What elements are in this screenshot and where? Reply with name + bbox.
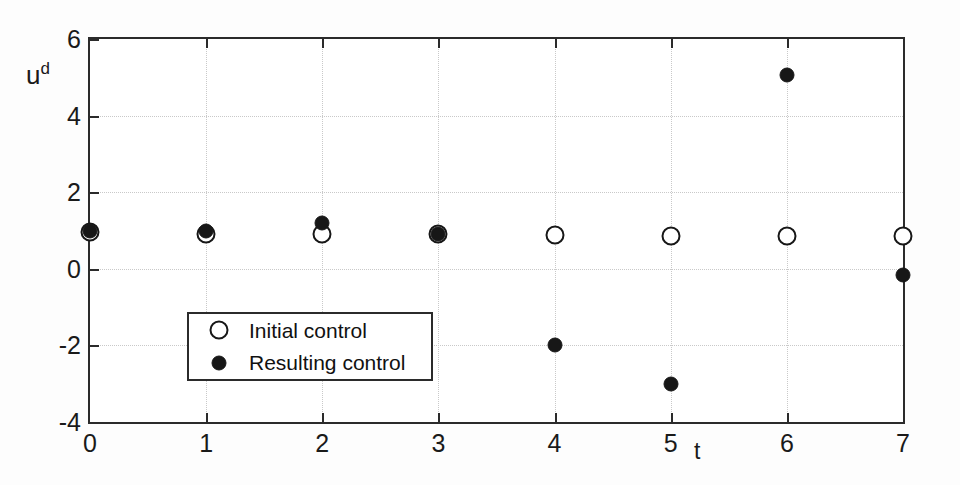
- data-point-resulting-t4: [547, 338, 562, 353]
- x-tick-label: 5: [664, 431, 678, 456]
- y-tick-label: -4: [59, 410, 81, 435]
- x-axis-title: t: [694, 440, 700, 463]
- x-tick-mark: [206, 413, 208, 422]
- x-tick-label: 7: [896, 431, 910, 456]
- x-tick-mark-top: [787, 39, 789, 48]
- data-point-initial-t6: [777, 226, 796, 245]
- x-tick-mark-top: [322, 39, 324, 48]
- x-tick-mark-top: [206, 39, 208, 48]
- y-tick-label: 4: [67, 103, 81, 128]
- x-tick-mark: [438, 413, 440, 422]
- y-tick-label: 2: [67, 180, 81, 205]
- x-tick-label: 0: [83, 431, 97, 456]
- y-axis-title-base: u: [26, 60, 40, 90]
- y-tick-mark: [90, 269, 99, 271]
- y-tick-label: -2: [59, 333, 81, 358]
- x-tick-label: 2: [315, 431, 329, 456]
- y-axis-title: ud: [26, 62, 50, 88]
- legend-label-resulting-control: Resulting control: [249, 352, 405, 373]
- y-tick-label: 0: [67, 256, 81, 281]
- x-tick-mark: [555, 413, 557, 422]
- x-tick-mark-top: [555, 39, 557, 48]
- legend-label-initial-control: Initial control: [249, 320, 367, 341]
- y-gridline: [90, 192, 903, 193]
- data-point-resulting-t6: [779, 68, 794, 83]
- legend-entry-initial-control: Initial control: [189, 314, 431, 347]
- data-point-initial-t4: [545, 226, 564, 245]
- x-tick-mark: [671, 413, 673, 422]
- legend-marker-filled-circle-icon: [189, 347, 249, 380]
- data-point-resulting-t3: [431, 227, 446, 242]
- x-tick-mark-top: [671, 39, 673, 48]
- y-tick-mark: [90, 422, 99, 424]
- y-gridline: [90, 269, 903, 270]
- y-tick-mark: [90, 39, 99, 41]
- data-point-resulting-t5: [663, 376, 678, 391]
- data-point-resulting-t1: [199, 223, 214, 238]
- x-tick-label: 4: [548, 431, 562, 456]
- x-tick-label: 3: [431, 431, 445, 456]
- x-tick-label: 1: [199, 431, 213, 456]
- y-tick-mark: [90, 345, 99, 347]
- data-point-initial-t5: [661, 226, 680, 245]
- data-point-resulting-t2: [315, 215, 330, 230]
- legend-entry-resulting-control: Resulting control: [189, 347, 431, 380]
- scatter-chart-figure: ud t -4-2024601234567 Initial control Re…: [0, 0, 960, 485]
- y-axis-title-superscript: d: [40, 59, 49, 78]
- x-tick-mark-top: [438, 39, 440, 48]
- y-tick-mark: [90, 192, 99, 194]
- y-tick-mark: [90, 116, 99, 118]
- x-tick-mark: [787, 413, 789, 422]
- y-tick-label: 6: [67, 27, 81, 52]
- data-point-resulting-t0: [83, 223, 98, 238]
- y-gridline: [90, 116, 903, 117]
- data-point-initial-t7: [894, 227, 913, 246]
- x-tick-label: 6: [780, 431, 794, 456]
- legend-marker-open-circle-icon: [189, 314, 249, 347]
- data-point-resulting-t7: [896, 267, 911, 282]
- chart-legend: Initial control Resulting control: [187, 312, 433, 381]
- x-tick-mark: [322, 413, 324, 422]
